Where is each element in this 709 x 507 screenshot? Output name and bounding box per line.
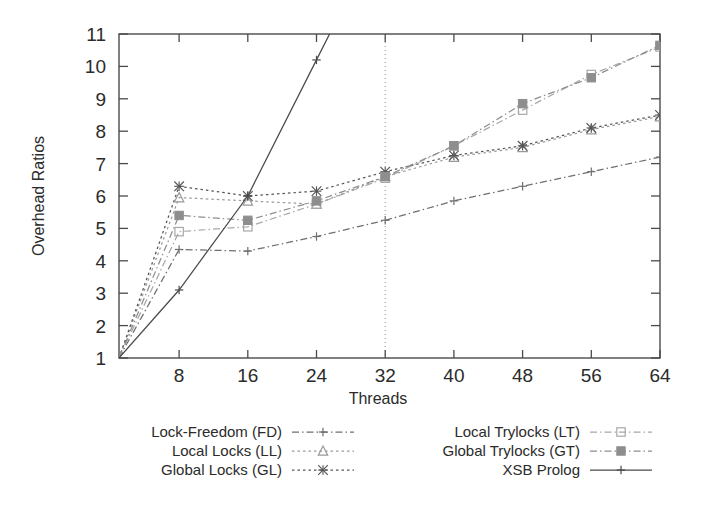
y-tick-label-10: 10 [85,56,106,77]
legend-label-GL: Global Locks (GL) [161,461,282,478]
marker-filled-square [450,142,458,150]
legend-label-FD: Lock-Freedom (FD) [151,423,282,440]
x-tick-label-24: 24 [306,365,328,386]
x-tick-labels: 816243240485664 [174,365,671,386]
y-tick-label-1: 1 [95,348,106,369]
chart-svg: 1234567891011 816243240485664 Overhead R… [0,0,709,507]
marker-filled-square [381,172,389,180]
marker-filled-square [312,197,320,205]
markers-LT [175,43,664,236]
y-tick-label-5: 5 [95,218,106,239]
x-tick-label-8: 8 [174,365,185,386]
x-axis-title: Threads [349,390,408,407]
series-line-FD [119,157,660,358]
series-line-GL [119,115,660,358]
y-axis-title: Overhead Ratios [30,136,47,256]
chart-figure: 1234567891011 816243240485664 Overhead R… [0,0,709,507]
markers-GL [174,110,664,201]
legend-column-left: Lock-Freedom (FD)Local Locks (LL)Global … [151,423,354,478]
markers-XSB [175,56,321,294]
y-tick-labels: 1234567891011 [85,24,107,369]
marker-filled-square [587,74,595,82]
x-tick-label-56: 56 [581,365,602,386]
marker-open-square [175,227,183,235]
series-line-GT [119,45,660,358]
y-tick-label-9: 9 [95,89,106,110]
y-tick-label-7: 7 [95,154,106,175]
x-tick-label-48: 48 [512,365,533,386]
series-line-LL [119,117,660,358]
legend-label-LL: Local Locks (LL) [172,442,282,459]
series-markers [174,41,664,294]
x-tick-label-40: 40 [443,365,464,386]
series-line-LT [119,47,660,358]
marker-filled-square [656,41,664,49]
y-tick-label-4: 4 [95,251,106,272]
legend-label-GT: Global Trylocks (GT) [442,442,580,459]
x-tick-label-64: 64 [649,365,671,386]
marker-filled-square [617,447,625,455]
y-tick-label-8: 8 [95,121,106,142]
marker-filled-square [244,216,252,224]
x-tick-label-16: 16 [237,365,258,386]
y-tick-label-11: 11 [86,24,106,45]
legend-label-XSB: XSB Prolog [502,461,580,478]
y-tick-label-6: 6 [95,186,106,207]
marker-filled-square [518,99,526,107]
y-tick-label-2: 2 [95,316,106,337]
legend-label-LT: Local Trylocks (LT) [454,423,580,440]
markers-FD [175,153,664,255]
marker-filled-square [175,211,183,219]
legend-column-right: Local Trylocks (LT)Global Trylocks (GT)X… [442,423,652,478]
y-tick-label-3: 3 [95,283,106,304]
x-tick-label-32: 32 [375,365,396,386]
